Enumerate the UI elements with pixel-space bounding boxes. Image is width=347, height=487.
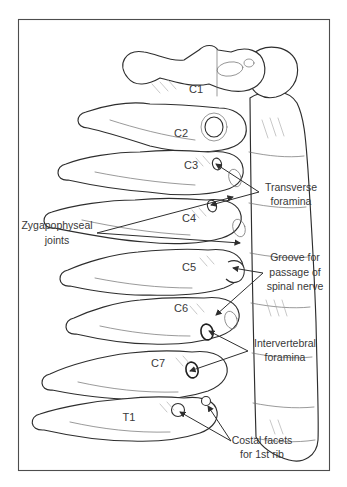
groove-hook xyxy=(226,261,244,283)
label-c4: C4 xyxy=(182,212,196,224)
label-c6: C6 xyxy=(174,302,188,314)
zygapophyseal-line2: joints xyxy=(44,234,70,246)
figure-page: C1 C2 C3 C4 C5 C6 C7 T1 Transverse foram… xyxy=(0,0,347,487)
c2-dens-circle xyxy=(205,117,223,137)
transverse-foramina-line1: Transverse xyxy=(265,181,317,193)
label-c2: C2 xyxy=(174,127,188,139)
label-c5: C5 xyxy=(182,261,196,273)
groove-line3: spinal nerve xyxy=(267,280,324,292)
label-t1: T1 xyxy=(123,411,136,423)
label-c3: C3 xyxy=(184,159,198,171)
intervertebral-line1: Intervertebral xyxy=(254,337,316,349)
costal-facets-line2: for 1st rib xyxy=(240,448,284,460)
label-c1: C1 xyxy=(189,83,203,95)
groove-line1: Groove for xyxy=(270,251,320,263)
zygapophyseal-line1: Zygapophyseal xyxy=(21,219,92,231)
costal-facet-anterior xyxy=(172,404,185,417)
intervertebral-line2: foramina xyxy=(265,351,306,363)
cervical-spine-diagram: C1 C2 C3 C4 C5 C6 C7 T1 Transverse foram… xyxy=(0,0,347,487)
label-c7: C7 xyxy=(151,357,165,369)
groove-line2: passage of xyxy=(269,266,320,278)
costal-facets-line1: Costal facets xyxy=(232,434,293,446)
annotation-groove-spinal-nerve: Groove for passage of spinal nerve xyxy=(267,251,324,292)
transverse-foramina-line2: foramina xyxy=(271,195,312,207)
costal-facet-posterior xyxy=(202,397,211,406)
